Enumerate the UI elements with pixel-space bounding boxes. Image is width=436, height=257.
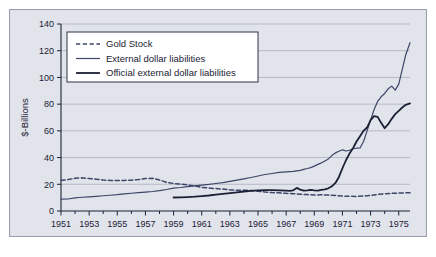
- y-tick-label: 20: [44, 180, 54, 190]
- x-tick-label: 1961: [192, 219, 212, 229]
- x-tick-label: 1957: [135, 219, 155, 229]
- y-tick-label: 80: [44, 99, 54, 109]
- chart-legend: Gold StockExternal dollar liabilitiesOff…: [67, 32, 258, 82]
- chart-figure: 020406080100120140 195119531955195719591…: [0, 0, 436, 257]
- x-tick-label: 1959: [164, 219, 184, 229]
- y-tick-label: 120: [39, 46, 54, 56]
- y-tick-label: 40: [44, 153, 54, 163]
- y-axis-title: $-Billions: [19, 98, 30, 137]
- legend-label: External dollar liabilities: [106, 53, 206, 64]
- y-tick-label: 100: [39, 73, 54, 83]
- line-chart: 020406080100120140 195119531955195719591…: [0, 0, 436, 257]
- x-tick-label: 1969: [304, 219, 324, 229]
- y-tick-group: 020406080100120140: [39, 19, 61, 216]
- series-line-2: [174, 103, 410, 197]
- legend-label: Gold Stock: [106, 38, 153, 49]
- y-tick-label: 60: [44, 126, 54, 136]
- x-tick-label: 1973: [361, 219, 381, 229]
- x-tick-label: 1955: [107, 219, 127, 229]
- x-tick-group: 1951195319551957195919611963196519671969…: [51, 211, 409, 229]
- y-tick-label: 140: [39, 19, 54, 29]
- x-tick-label: 1975: [389, 219, 409, 229]
- y-tick-label: 0: [49, 206, 54, 216]
- x-tick-label: 1963: [220, 219, 240, 229]
- x-tick-label: 1967: [276, 219, 296, 229]
- legend-label: Official external dollar liabilities: [106, 67, 236, 78]
- x-tick-label: 1953: [79, 219, 99, 229]
- x-tick-label: 1965: [248, 219, 268, 229]
- y-axis-label: $-Billions: [19, 98, 30, 137]
- x-tick-label: 1951: [51, 219, 71, 229]
- x-tick-label: 1971: [332, 219, 352, 229]
